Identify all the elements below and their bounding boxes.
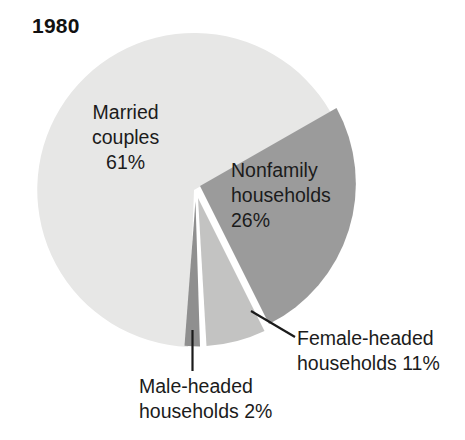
callout-label-female-headed-line1: Female-headed [297,326,440,351]
slice-value-married-couples: 61% [92,150,159,175]
callout-label-male-headed-line1: Male-headed [139,374,272,399]
slice-label-married-couples-line1: Married [92,100,159,125]
callout-label-female-headed-households: Female-headed households 11% [297,326,440,377]
slice-label-nonfamily-households: Nonfamily households 26% [231,158,331,233]
slice-label-nonfamily-households-line1: Nonfamily [231,158,331,183]
slice-value-nonfamily-households: 26% [231,208,331,233]
callout-label-male-headed-households: Male-headed households 2% [139,374,272,425]
slice-label-married-couples-line2: couples [92,125,159,150]
callout-label-male-headed-line2: households 2% [139,399,272,424]
slice-label-married-couples: Married couples 61% [92,100,159,175]
slice-label-nonfamily-households-line2: households [231,183,331,208]
callout-label-female-headed-line2: households 11% [297,351,440,376]
pie-chart-figure: 1980 Married couples 61% Nonfamily house… [0,0,465,440]
